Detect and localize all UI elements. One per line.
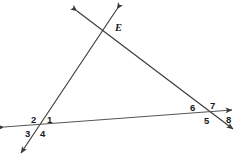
- angle-label-7: 7: [210, 101, 215, 111]
- angle-label-3: 3: [25, 129, 30, 139]
- angle-label-8: 8: [226, 115, 231, 125]
- angle-label-2: 2: [31, 115, 36, 125]
- geometry-figure: E 1 2 3 4 5 6 7 8: [0, 0, 243, 164]
- angle-label-1: 1: [47, 115, 52, 125]
- point-label-e: E: [115, 23, 122, 34]
- angle-label-6: 6: [190, 103, 195, 113]
- angle-label-4: 4: [40, 129, 45, 139]
- angle-label-5: 5: [204, 116, 209, 126]
- line-horizontal: [4, 110, 232, 127]
